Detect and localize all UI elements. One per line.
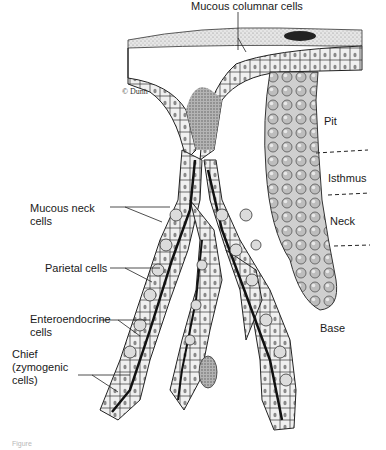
gastric-gland-figure: © Dunn Mucous columnar cells Mucous neck… [0, 0, 386, 450]
surface-top [128, 28, 362, 48]
region-label-neck: Neck [330, 215, 355, 228]
surface-pit-opening [284, 31, 316, 41]
label-parietal-cells: Parietal cells [45, 262, 107, 275]
region-label-pit: Pit [324, 115, 337, 128]
gland-external-3d [265, 72, 337, 310]
region-label-base: Base [320, 322, 345, 335]
label-mucous-neck-cells: Mucous neck cells [30, 202, 95, 228]
label-mucous-columnar-cells: Mucous columnar cells [191, 0, 303, 13]
figure-caption-fragment: Figure [12, 440, 32, 447]
label-chief-cells: Chief (zymogenic cells) [12, 348, 68, 387]
label-enteroendocrine-cells: Enteroendocrine cells [30, 313, 111, 339]
artist-signature: © Dunn [122, 87, 148, 96]
region-label-isthmus: Isthmus [328, 172, 367, 185]
